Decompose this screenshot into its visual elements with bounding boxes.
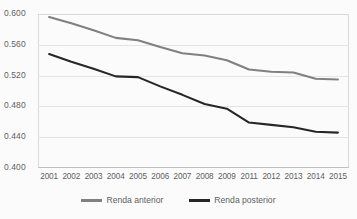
x-axis: 2001200220032004200520062007200820092011… <box>38 171 349 183</box>
line-chart: 0.4000.4400.4800.5200.5600.600 200120022… <box>0 0 357 219</box>
y-axis-tick-label: 0.400 <box>4 163 38 172</box>
y-axis-tick-label: 0.600 <box>4 9 38 18</box>
y-axis-tick-label: 0.440 <box>4 132 38 141</box>
legend-line-swatch <box>189 199 210 202</box>
x-axis-tick-label: 2005 <box>127 171 149 183</box>
y-axis-tick-label: 0.520 <box>4 71 38 80</box>
chart-legend: Renda anteriorRenda posterior <box>0 195 357 205</box>
legend-label: Renda posterior <box>214 195 275 205</box>
x-axis-tick-label: 2012 <box>260 171 282 183</box>
x-axis-tick-label: 2006 <box>149 171 171 183</box>
x-axis-tick-label: 2014 <box>305 171 327 183</box>
legend-item[interactable]: Renda posterior <box>189 195 275 205</box>
x-axis-tick-label: 2013 <box>282 171 304 183</box>
y-axis-tick-label: 0.480 <box>4 101 38 110</box>
x-axis-tick-label: 2003 <box>82 171 104 183</box>
series-lines <box>38 14 349 168</box>
y-axis-tick-label: 0.560 <box>4 40 38 49</box>
x-axis-tick-label: 2001 <box>38 171 60 183</box>
x-axis-tick-label: 2008 <box>194 171 216 183</box>
x-axis-tick-label: 2009 <box>216 171 238 183</box>
x-axis-tick-label: 2004 <box>105 171 127 183</box>
series-line <box>49 17 338 79</box>
series-line <box>49 54 338 133</box>
legend-item[interactable]: Renda anterior <box>81 195 163 205</box>
x-axis-tick-label: 2002 <box>60 171 82 183</box>
x-axis-tick-label: 2007 <box>171 171 193 183</box>
x-axis-tick-label: 2011 <box>238 171 260 183</box>
legend-line-swatch <box>81 199 102 202</box>
legend-label: Renda anterior <box>106 195 163 205</box>
plot-area <box>38 14 349 168</box>
x-axis-tick-label: 2015 <box>327 171 349 183</box>
